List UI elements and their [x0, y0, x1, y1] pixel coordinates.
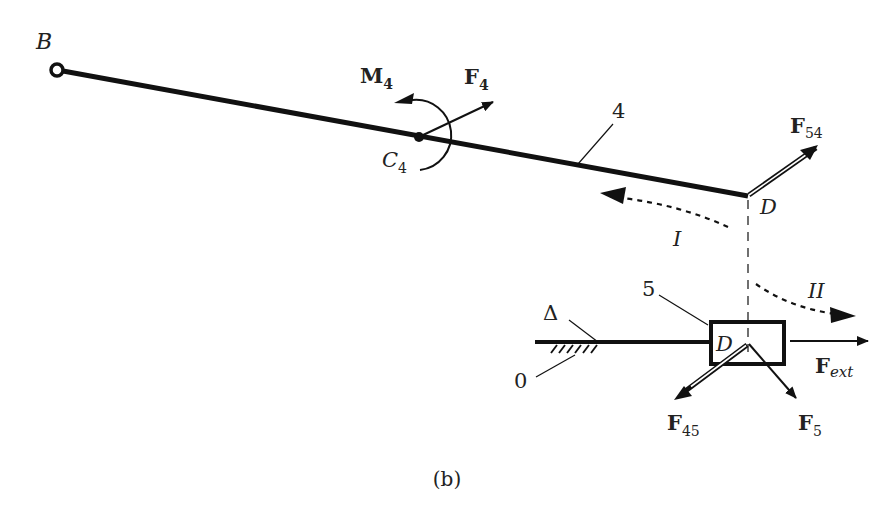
center-of-mass-c4: [414, 132, 424, 142]
label-d-slider: D: [715, 332, 733, 356]
label-point-b: B: [35, 29, 52, 54]
moment-m4-arrowhead-icon: [394, 93, 414, 104]
slider-5-leader: [659, 295, 708, 325]
label-path-ii: II: [807, 279, 825, 303]
link-4: [63, 71, 748, 196]
motion-path-i: [622, 198, 728, 227]
label-f5: F5: [798, 410, 822, 439]
force-f5-arrow: [749, 344, 796, 398]
label-link-4: 4: [612, 99, 625, 123]
label-d-top: D: [759, 195, 777, 219]
label-f45: F45: [667, 410, 700, 439]
label-ground-0: 0: [514, 369, 527, 393]
label-c4: C4: [382, 148, 407, 176]
link-4-leader: [578, 124, 613, 164]
label-f4: F4: [464, 64, 489, 93]
label-guide-delta: Δ: [543, 301, 558, 325]
force-f4-arrow: [421, 102, 493, 136]
label-f54: F54: [790, 113, 823, 141]
label-path-i: I: [672, 227, 682, 251]
label-m4: M4: [360, 63, 393, 92]
mechanism-diagram: B M4 F4 C4 4 F54 D I II 5 Δ 0 D Fext F45…: [0, 0, 894, 512]
pin-b-icon: [51, 64, 63, 76]
figure-caption: (b): [433, 467, 461, 491]
guide-delta-leader: [569, 320, 598, 342]
label-fext: Fext: [815, 353, 854, 381]
label-slider-5: 5: [642, 277, 655, 301]
ground-0-leader: [536, 355, 575, 377]
ground-hatching-icon: [551, 345, 597, 353]
